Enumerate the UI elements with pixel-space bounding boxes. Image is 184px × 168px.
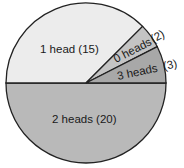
pie-chart: 1 head (15) 2 heads (20) 0 heads (2) 3 h… [0,0,184,168]
label-3-heads-count: (3) [162,57,178,72]
label-1-head: 1 head (15) [40,43,99,55]
label-2-heads: 2 heads (20) [52,113,117,125]
